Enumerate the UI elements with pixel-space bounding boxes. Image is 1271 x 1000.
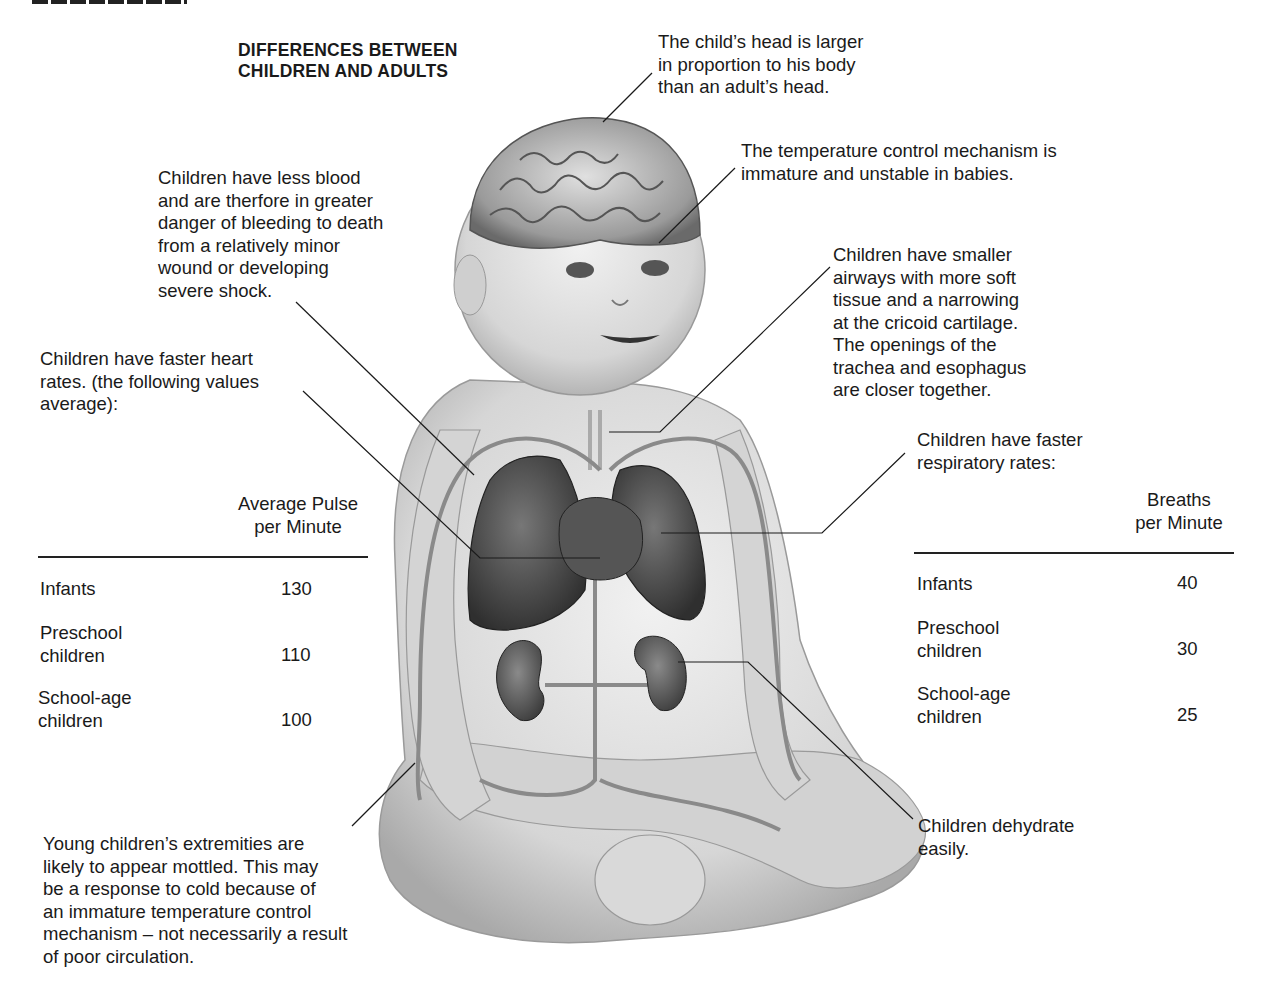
- pulse-table-header: Average Pulse per Minute: [228, 493, 368, 538]
- breath-row-label: Preschool children: [917, 617, 999, 662]
- pulse-table-rule: [38, 556, 368, 558]
- callout-temperature-control: The temperature control mechanism is imm…: [741, 140, 1057, 185]
- breath-row-value: 25: [1177, 704, 1198, 727]
- callout-dehydration: Children dehydrate easily.: [918, 815, 1074, 860]
- pulse-table: Average Pulse per Minute: [38, 493, 368, 558]
- pulse-row-value: 110: [281, 644, 311, 667]
- breath-table-header: Breaths per Minute: [1124, 489, 1234, 534]
- breath-row-label: School-age children: [917, 683, 1011, 728]
- callout-mottled-extremities: Young children’s extremities are likely …: [43, 833, 347, 968]
- pulse-row-label: Preschool children: [40, 622, 122, 667]
- breath-row-value: 40: [1177, 572, 1198, 595]
- callout-smaller-airways: Children have smaller airways with more …: [833, 244, 1026, 402]
- breath-table: Breaths per Minute: [914, 489, 1234, 554]
- pulse-row-value: 130: [281, 578, 312, 601]
- head: [454, 118, 705, 395]
- pulse-row-label: School-age children: [38, 687, 132, 732]
- callout-heart-rates: Children have faster heart rates. (the f…: [40, 348, 259, 416]
- callout-head-size: The child’s head is larger in proportion…: [658, 31, 863, 99]
- figure-title: DIFFERENCES BETWEEN CHILDREN AND ADULTS: [238, 40, 458, 82]
- breath-row-value: 30: [1177, 638, 1198, 661]
- heart: [559, 498, 643, 581]
- breath-table-rule: [914, 552, 1234, 554]
- pulse-row-label: Infants: [40, 578, 96, 601]
- pulse-row-value: 100: [281, 709, 312, 732]
- callout-less-blood: Children have less blood and are therfor…: [158, 167, 383, 302]
- callout-respiratory-rates: Children have faster respiratory rates:: [917, 429, 1083, 474]
- breath-row-label: Infants: [917, 573, 973, 596]
